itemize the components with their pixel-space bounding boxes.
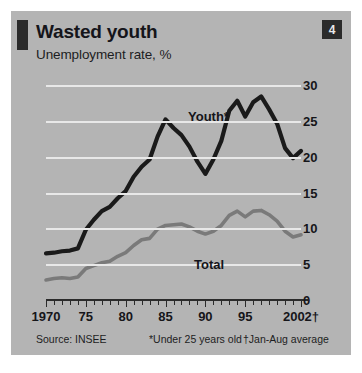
y-axis-tick-label: 25	[303, 113, 317, 128]
y-axis-tick-label: 30	[303, 78, 317, 93]
footer-note-dagger: †Jan-Aug average	[243, 333, 329, 345]
footer-source: Source: INSEE	[36, 333, 107, 345]
y-axis-tick-label: 5	[303, 257, 310, 272]
y-axis-tick-label: 10	[303, 221, 317, 236]
x-axis-tick-mark	[110, 301, 111, 305]
gridline-30	[46, 85, 301, 87]
x-axis-tick-label: 2002†	[283, 309, 319, 324]
x-axis-tick-mark	[158, 301, 159, 305]
gridline-25	[46, 121, 301, 123]
x-axis-tick-mark	[277, 301, 278, 305]
x-axis-tick-mark	[166, 301, 167, 307]
x-axis-tick-mark	[261, 301, 262, 305]
gridline-5	[46, 264, 301, 266]
series-label-youth: Youth*	[188, 109, 229, 124]
x-axis-tick-mark	[269, 301, 270, 305]
x-axis-tick-mark	[229, 301, 230, 305]
x-axis-tick-mark	[301, 301, 302, 307]
x-axis-tick-mark	[197, 301, 198, 305]
x-axis-tick-mark	[150, 301, 151, 305]
chart-title: Wasted youth	[36, 21, 157, 43]
x-axis-tick-mark	[285, 301, 286, 305]
x-axis-tick-mark	[126, 301, 127, 307]
footer-note-star: *Under 25 years old	[149, 333, 242, 345]
gridline-15	[46, 193, 301, 195]
x-axis-tick-mark	[205, 301, 206, 307]
x-axis-tick-mark	[46, 301, 47, 307]
chart-number-badge: 4	[322, 20, 342, 39]
x-axis-tick-label: 80	[118, 309, 132, 324]
x-axis-tick-mark	[102, 301, 103, 305]
x-axis-tick-mark	[237, 301, 238, 305]
x-axis-tick-mark	[189, 301, 190, 305]
x-axis-tick-mark	[134, 301, 135, 305]
x-axis-tick-label: 95	[238, 309, 252, 324]
series-line-total	[46, 210, 301, 280]
x-axis-tick-mark	[213, 301, 214, 305]
x-axis-tick-mark	[142, 301, 143, 305]
y-axis-tick-label: 20	[303, 149, 317, 164]
chart-subtitle: Unemployment rate, %	[36, 47, 171, 62]
gridline-20	[46, 157, 301, 159]
chart-figure: Wasted youth Unemployment rate, % 4 Yout…	[11, 11, 351, 355]
plot-area	[46, 85, 301, 300]
y-axis-tick-label: 0	[303, 293, 310, 308]
series-label-total: Total	[194, 257, 224, 272]
x-axis-tick-mark	[181, 301, 182, 305]
gridline-10	[46, 228, 301, 230]
title-accent-bar	[17, 20, 28, 50]
chart-footer: Source: INSEE *Under 25 years old †Jan-A…	[11, 333, 351, 347]
x-axis-tick-label: 90	[198, 309, 212, 324]
x-axis-tick-mark	[70, 301, 71, 305]
x-axis-tick-mark	[62, 301, 63, 305]
x-axis-tick-mark	[118, 301, 119, 305]
x-axis-tick-mark	[78, 301, 79, 305]
x-axis-tick-mark	[221, 301, 222, 305]
x-axis-tick-mark	[86, 301, 87, 307]
x-axis-tick-label: 75	[79, 309, 93, 324]
y-axis-tick-label: 15	[303, 185, 317, 200]
x-axis-tick-mark	[94, 301, 95, 305]
x-axis-tick-mark	[54, 301, 55, 305]
x-axis-tick-label: 85	[158, 309, 172, 324]
x-axis-tick-mark	[293, 301, 294, 305]
x-axis-tick-label: 1970	[32, 309, 61, 324]
x-axis-tick-mark	[245, 301, 246, 307]
x-axis-tick-mark	[253, 301, 254, 305]
x-axis-tick-mark	[174, 301, 175, 305]
